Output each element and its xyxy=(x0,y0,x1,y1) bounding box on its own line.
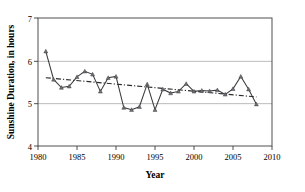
x-tick-label-1990: 1990 xyxy=(108,152,125,162)
y-axis-ticks xyxy=(34,18,38,146)
x-tick-label-1995: 1995 xyxy=(147,152,164,162)
y-tick-label-7: 7 xyxy=(28,14,32,24)
x-tick-label-1980: 1980 xyxy=(30,152,47,162)
x-axis-ticks xyxy=(38,146,272,150)
y-tick-label-5: 5 xyxy=(28,99,32,109)
chart-figure: 7 6 5 4 1980 1985 1990 1995 2000 2005 20… xyxy=(0,0,305,192)
x-tick-label-2000: 2000 xyxy=(186,152,203,162)
y-tick-label-4: 4 xyxy=(28,142,33,152)
y-axis-tick-labels: 7 6 5 4 xyxy=(28,14,33,152)
y-tick-label-6: 6 xyxy=(28,57,32,67)
x-axis-tick-labels: 1980 1985 1990 1995 2000 2005 2010 xyxy=(30,152,281,162)
x-tick-label-2005: 2005 xyxy=(225,152,242,162)
y-axis-title: Sunshine Duration, in hours xyxy=(6,24,16,139)
x-tick-label-1985: 1985 xyxy=(69,152,86,162)
x-tick-label-2010: 2010 xyxy=(264,152,281,162)
x-axis-title: Year xyxy=(146,170,166,180)
sunshine-duration-line-chart: 7 6 5 4 1980 1985 1990 1995 2000 2005 20… xyxy=(0,0,305,192)
